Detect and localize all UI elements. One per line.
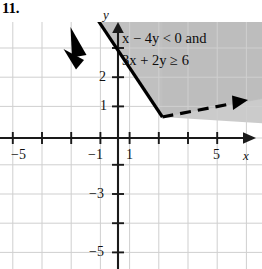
y-tick-label-neg5: −5 bbox=[89, 245, 104, 259]
x-tick-label-pos1: 1 bbox=[126, 148, 133, 162]
x-tick-label-pos5: 5 bbox=[213, 148, 220, 162]
x-tick-label-neg5: −5 bbox=[11, 148, 26, 162]
y-tick-label-neg3: −3 bbox=[89, 187, 104, 201]
x-tick-label-neg1: −1 bbox=[88, 148, 103, 162]
y-tick-label-pos2: 2 bbox=[99, 70, 106, 84]
graph-figure: 11. bbox=[0, 0, 262, 269]
y-axis-label: y bbox=[103, 8, 109, 21]
x-axis-label: x bbox=[243, 149, 249, 162]
coordinate-plane: −5 −1 1 5 2 1 −3 −5 x y x − 4y < 0 and 3… bbox=[0, 22, 262, 269]
y-tick-label-pos1: 1 bbox=[100, 99, 107, 113]
inequality-annotation-second: 3x + 2y ≥ 6 bbox=[122, 53, 189, 68]
problem-number: 11. bbox=[2, 1, 19, 16]
inequality-annotation-first: x − 4y < 0 and bbox=[122, 31, 206, 46]
